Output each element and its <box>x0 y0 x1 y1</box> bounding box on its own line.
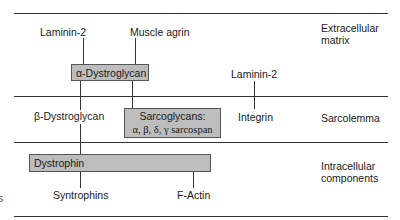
zone-extracellular-line2: matrix <box>321 34 379 46</box>
integrin-label: Integrin <box>238 111 273 123</box>
connector-laminin-integrin <box>254 81 255 109</box>
connector-alpha-sarcoglycan <box>132 80 133 108</box>
connector-dystrophin-factin <box>193 172 194 188</box>
laminin-2-label: Laminin-2 <box>40 26 86 38</box>
alpha-dystroglycan-box: α-Dystroglycan <box>71 64 149 81</box>
laminin-2-right-label: Laminin-2 <box>231 68 277 80</box>
connector-dystrophin-syntrophins <box>80 172 81 188</box>
zone-intracellular-line1: Intracellular <box>321 160 378 172</box>
sarcoglycans-members-label: α, β, δ, γ sarcospan <box>125 123 220 136</box>
alpha-dystroglycan-label: α-Dystroglycan <box>76 67 146 79</box>
zone-extracellular-line1: Extracellular <box>321 22 379 34</box>
muscle-agrin-label: Muscle agrin <box>130 26 190 38</box>
connector-laminin-alpha <box>83 38 84 65</box>
f-actin-label: F-Actin <box>177 189 210 201</box>
zone-sarcolemma: Sarcolemma <box>321 112 380 124</box>
connector-agrin-alpha <box>135 38 136 65</box>
dystrophin-box: Dystrophin <box>29 154 211 172</box>
syntrophins-label: Syntrophins <box>53 189 108 201</box>
zone-intracellular-line2: components <box>321 172 378 184</box>
sarcolemma-outer-line <box>14 96 388 97</box>
zone-extracellular: Extracellular matrix <box>321 22 379 46</box>
sarcoglycans-box: Sarcoglycans: α, β, δ, γ sarcospan <box>124 108 221 138</box>
sarcoglycans-label: Sarcoglycans: <box>125 110 220 123</box>
edge-text-fragment: s <box>0 192 3 204</box>
top-boundary-line <box>14 13 388 14</box>
connector-alpha-beta <box>80 80 81 110</box>
dystrophin-label: Dystrophin <box>34 157 84 169</box>
connector-beta-dystrophin <box>80 124 81 155</box>
sarcolemma-inner-line <box>14 142 388 143</box>
bottom-boundary-line <box>14 216 388 217</box>
zone-intracellular: Intracellular components <box>321 160 378 184</box>
beta-dystroglycan-label: β-Dystroglycan <box>34 110 104 122</box>
